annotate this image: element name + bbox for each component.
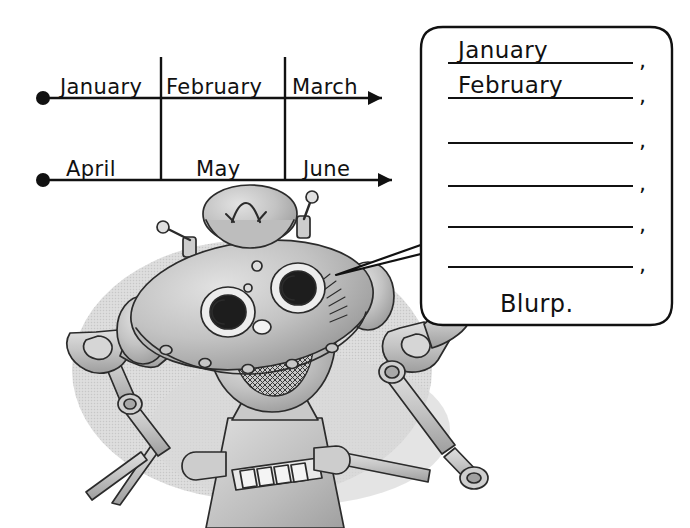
timeline-bottom-label-1: April xyxy=(66,157,116,181)
answer-line-1-comma: , xyxy=(639,48,646,73)
answer-line-6-comma: , xyxy=(639,252,646,277)
ink-layer: January February March April May June Ja… xyxy=(0,0,690,528)
answer-line-5-comma: , xyxy=(639,212,646,237)
answer-line-4-comma: , xyxy=(639,171,646,196)
timeline-bottom-arrowhead xyxy=(378,173,392,187)
timeline-top-label-3: March xyxy=(292,75,358,99)
worksheet-illustration: January February March April May June Ja… xyxy=(0,0,690,528)
timeline-top-label-1: January xyxy=(58,75,142,99)
speech-bubble: January , February , , , xyxy=(336,27,672,325)
answer-line-2-comma: , xyxy=(639,83,646,108)
answer-line-1-value: January xyxy=(456,37,548,63)
answer-line-3-comma: , xyxy=(639,128,646,153)
timeline-bottom: April May June xyxy=(36,157,392,187)
timeline-bottom-label-2: May xyxy=(196,157,241,181)
timeline-top-label-2: February xyxy=(166,75,262,99)
answer-line-2-value: February xyxy=(458,72,563,98)
timeline-top-arrowhead xyxy=(368,91,382,105)
timeline-bottom-label-3: June xyxy=(301,157,350,181)
speech-bubble-closing-text: Blurp. xyxy=(500,290,573,318)
